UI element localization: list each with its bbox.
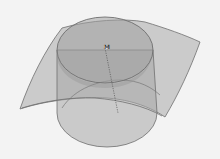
cylinder-top-ellipse [57,17,153,83]
diagram-canvas: M [0,0,220,159]
point-label: M [104,43,110,50]
cylinder-surface-figure [0,0,220,159]
